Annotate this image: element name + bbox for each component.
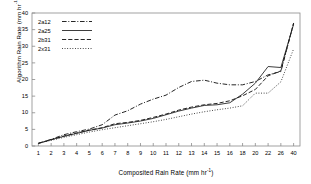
y-tick-label: 30 — [14, 43, 28, 49]
chart-figure: Algorithm Rain Rate (mm hr-1) Composited… — [0, 0, 311, 184]
legend-label: 2x31 — [38, 46, 58, 52]
y-tick-label: 0 — [14, 143, 28, 149]
y-tick-label: 25 — [14, 60, 28, 66]
legend-swatch-2x31 — [62, 45, 92, 52]
chart-legend: 2a122a252b312x31 — [38, 17, 92, 53]
y-tick-label: 15 — [14, 93, 28, 99]
y-tick-label: 5 — [14, 126, 28, 132]
y-tick-label: 35 — [14, 26, 28, 32]
y-tick-label: 20 — [14, 76, 28, 82]
legend-swatch-2a12 — [62, 18, 92, 25]
legend-swatch-2b31 — [62, 36, 92, 43]
legend-label: 2a12 — [38, 19, 58, 25]
x-tick-label: 40 — [287, 150, 301, 156]
x-axis-title: Composited Rain Rate (mm hr-1) — [32, 169, 300, 176]
y-tick-label: 10 — [14, 109, 28, 115]
legend-swatch-2a25 — [62, 27, 92, 34]
legend-label: 2b31 — [38, 37, 58, 43]
legend-item-2x31: 2x31 — [38, 44, 92, 53]
legend-item-2a25: 2a25 — [38, 26, 92, 35]
legend-item-2a12: 2a12 — [38, 17, 92, 26]
y-tick-label: 40 — [14, 10, 28, 16]
legend-item-2b31: 2b31 — [38, 35, 92, 44]
series-line-2x31 — [38, 49, 293, 143]
legend-label: 2a25 — [38, 28, 58, 34]
